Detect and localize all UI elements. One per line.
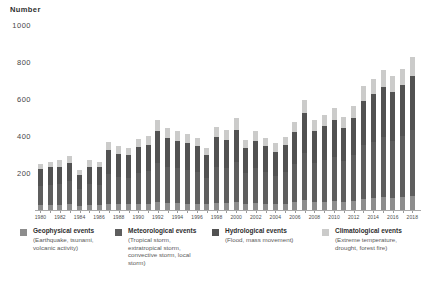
x-tick-2000 (236, 211, 237, 213)
bar-1997-meteorological-segment (204, 178, 209, 205)
legend-description-hydrological: (Flood, mass movement) (225, 236, 307, 244)
bar-2018-geophysical-segment (410, 196, 415, 210)
x-tick-label-1994: 1994 (167, 214, 187, 220)
bar-2018-hydrological-segment (410, 76, 415, 131)
bar-2010-climatological-segment (332, 108, 337, 120)
bar-1997 (204, 148, 209, 210)
bar-1989-climatological-segment (126, 148, 131, 155)
x-tick-label-1980: 1980 (30, 214, 50, 220)
bar-1999 (224, 130, 229, 210)
bar-1999-geophysical-segment (224, 203, 229, 210)
bar-2002 (253, 131, 258, 210)
bar-2010-geophysical-segment (332, 201, 337, 210)
bar-1995-meteorological-segment (185, 170, 190, 203)
bar-2016-hydrological-segment (390, 92, 395, 141)
bar-2009 (322, 115, 327, 210)
bar-2004-hydrological-segment (273, 152, 278, 176)
x-tick-2014 (373, 211, 374, 213)
bar-1991-climatological-segment (146, 136, 151, 145)
bar-2012-geophysical-segment (351, 201, 356, 210)
bar-1983-meteorological-segment (67, 181, 72, 204)
x-tick-1986 (99, 211, 100, 213)
bar-2006-hydrological-segment (292, 132, 297, 163)
bar-2007-hydrological-segment (302, 113, 307, 153)
bar-2013-geophysical-segment (361, 199, 366, 210)
bar-2008-geophysical-segment (312, 202, 317, 210)
x-tick-label-1996: 1996 (187, 214, 207, 220)
bar-1994-hydrological-segment (175, 141, 180, 169)
bar-2001 (243, 140, 248, 210)
legend-swatch-meteorological (115, 229, 122, 236)
x-tick-label-2002: 2002 (246, 214, 266, 220)
bar-2018-meteorological-segment (410, 130, 415, 196)
bar-2017-meteorological-segment (400, 136, 405, 197)
x-tick-1988 (119, 211, 120, 213)
x-tick-label-2004: 2004 (265, 214, 285, 220)
bar-1987 (106, 142, 111, 210)
legend-description-climatological: (Extreme temperature, drought, forest fi… (335, 236, 413, 251)
bar-1986-meteorological-segment (97, 185, 102, 205)
bar-2007-meteorological-segment (302, 153, 307, 200)
bar-1988-hydrological-segment (116, 154, 121, 177)
bar-2009-hydrological-segment (322, 126, 327, 160)
bar-2002-climatological-segment (253, 131, 258, 140)
bar-2008-climatological-segment (312, 120, 317, 131)
x-tick-2004 (275, 211, 276, 213)
y-tick-label-400: 400 (0, 132, 31, 141)
bar-1988-meteorological-segment (116, 177, 121, 205)
x-tick-1998 (217, 211, 218, 213)
bar-1986-hydrological-segment (97, 167, 102, 185)
bar-1996-climatological-segment (195, 138, 200, 146)
bar-2016-geophysical-segment (390, 198, 395, 210)
x-tick-1987 (109, 211, 110, 213)
bar-2007-climatological-segment (302, 100, 307, 113)
bar-2014-meteorological-segment (371, 142, 376, 198)
bar-1980-hydrological-segment (38, 169, 43, 186)
bar-2007-geophysical-segment (302, 200, 307, 210)
x-tick-2009 (324, 211, 325, 213)
legend-swatch-climatological (322, 229, 329, 236)
legend-label-geophysical: Geophysical events (33, 227, 103, 235)
bar-1990-meteorological-segment (136, 173, 141, 204)
bar-2015-hydrological-segment (381, 87, 386, 137)
bar-2018-climatological-segment (410, 57, 415, 76)
bar-1981-meteorological-segment (48, 185, 53, 205)
bar-1984 (77, 170, 82, 210)
bar-2014-hydrological-segment (371, 94, 376, 141)
legend-label-meteorological: Meteorological events (128, 227, 204, 235)
bar-2000 (234, 118, 239, 210)
bar-1981-hydrological-segment (48, 167, 53, 185)
bar-2012-meteorological-segment (351, 155, 356, 200)
x-tick-label-2006: 2006 (285, 214, 305, 220)
x-tick-1999 (226, 211, 227, 213)
bar-1994-geophysical-segment (175, 203, 180, 210)
bar-2001-hydrological-segment (243, 148, 248, 173)
x-tick-1989 (129, 211, 130, 213)
bar-2017-geophysical-segment (400, 197, 405, 210)
bar-1996-meteorological-segment (195, 172, 200, 203)
bar-2014 (371, 79, 376, 210)
bar-1996-hydrological-segment (195, 146, 200, 172)
bar-1992-meteorological-segment (155, 163, 160, 202)
bar-1997-climatological-segment (204, 148, 209, 155)
bar-1988-climatological-segment (116, 146, 121, 153)
bar-2013-hydrological-segment (361, 101, 366, 145)
x-tick-2007 (305, 211, 306, 213)
x-tick-label-2014: 2014 (363, 214, 383, 220)
x-tick-1994 (177, 211, 178, 213)
bar-1999-climatological-segment (224, 130, 229, 139)
bar-1986 (97, 162, 102, 210)
bar-2002-hydrological-segment (253, 141, 258, 169)
x-tick-label-1984: 1984 (70, 214, 90, 220)
x-tick-2005 (285, 211, 286, 213)
bar-2016-climatological-segment (390, 76, 395, 92)
x-tick-1991 (148, 211, 149, 213)
bar-2014-geophysical-segment (371, 198, 376, 210)
bar-1985 (87, 160, 92, 210)
bar-1998-climatological-segment (214, 127, 219, 137)
bar-1998-geophysical-segment (214, 203, 219, 210)
bar-2013-meteorological-segment (361, 145, 366, 199)
x-tick-label-2018: 2018 (402, 214, 422, 220)
x-tick-1995 (187, 211, 188, 213)
bar-1992-climatological-segment (155, 120, 160, 131)
